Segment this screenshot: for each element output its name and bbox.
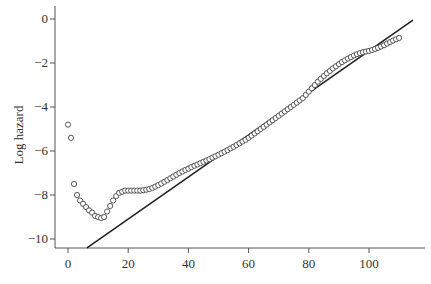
data-point [102, 214, 107, 219]
y-tick-label: −8 [34, 187, 48, 202]
data-point [108, 203, 113, 208]
data-point [74, 192, 79, 197]
y-tick-label: −2 [34, 55, 48, 70]
data-point [71, 181, 76, 186]
x-tick-label: 80 [302, 256, 315, 271]
y-tick-label: 0 [42, 11, 49, 26]
y-axis-label: Log hazard [11, 105, 26, 164]
data-point [68, 135, 73, 140]
x-tick-label: 0 [65, 256, 72, 271]
data-point [65, 122, 70, 127]
y-tick-label: −6 [34, 143, 48, 158]
x-tick-label: 20 [122, 256, 135, 271]
x-tick-label: 60 [242, 256, 255, 271]
data-point [397, 35, 402, 40]
y-tick-label: −10 [28, 231, 48, 246]
data-point [105, 209, 110, 214]
log-hazard-chart: 0−2−4−6−8−10020406080100 Log hazard [0, 0, 431, 284]
y-tick-label: −4 [34, 99, 48, 114]
axes: 0−2−4−6−8−10020406080100 [28, 6, 425, 271]
x-tick-label: 100 [359, 256, 379, 271]
x-tick-label: 40 [182, 256, 195, 271]
